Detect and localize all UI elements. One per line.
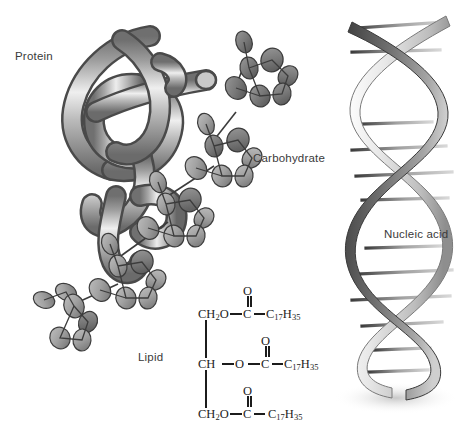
lipid-row3-backbone: CH2O [198,407,229,422]
lipid-row3-carbonyl: C [243,407,251,422]
label-lipid: Lipid [138,351,163,363]
lipid-row2-backbone: CH [198,357,215,372]
label-carbohydrate: Carbohydrate [253,152,325,164]
chain-bond-1 [254,313,265,315]
lipid-row2-ester-o: O [235,357,244,372]
lipid-row2-chain: C17H35 [284,357,318,372]
lipid-row1-backbone: CH2O [198,307,229,322]
sugar-unit [181,111,266,190]
lipid-row1-carbonyl: C [243,307,251,322]
lipid-row1-carbonyl-o: O [243,284,252,299]
label-protein: Protein [15,50,53,62]
ester-bond-1 [230,313,242,315]
lipid-row1-chain: C17H35 [266,307,300,322]
sugar-unit [221,29,302,110]
ester-bond-2b [248,363,260,365]
chain-bond-2 [272,363,283,365]
ester-bond-2 [222,363,234,365]
ester-bond-3 [230,413,242,415]
figure-canvas: CH2O C O C17H35 CH O C O C17H35 CH2O C [0,0,474,436]
backbone-bond-2 [205,370,207,408]
label-nucleic-acid: Nucleic acid [384,228,448,240]
backbone-bond-1 [205,320,207,358]
lipid-row2-carbonyl-o: O [261,334,270,349]
nucleic-acid-illustration [334,16,458,414]
lipid-row3-carbonyl-o: O [243,384,252,399]
chain-bond-3 [254,413,265,415]
lipid-row3-chain: C17H35 [268,407,302,422]
lipid-row2-carbonyl: C [261,357,269,372]
